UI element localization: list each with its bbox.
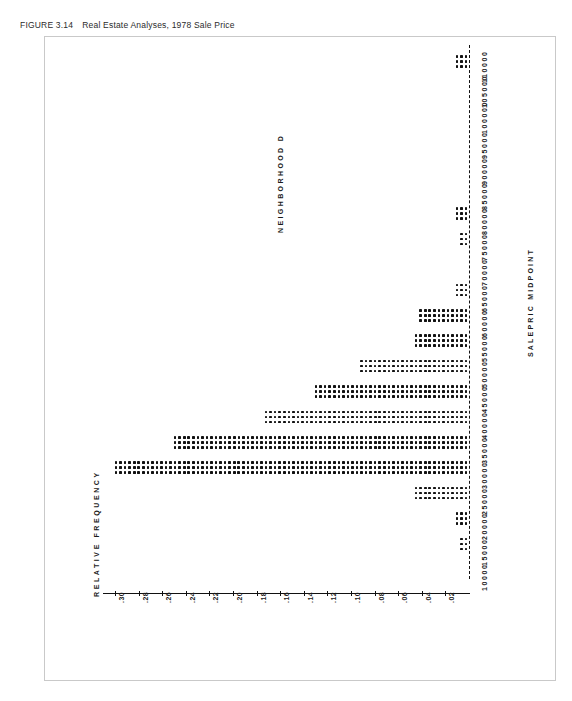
- bar-dot: [442, 339, 447, 342]
- bar-dot: [464, 421, 469, 424]
- bar-dot-row: [414, 497, 469, 500]
- bar-dot: [419, 471, 424, 474]
- bar-dot: [201, 446, 206, 449]
- bar-dot-row: [455, 517, 469, 520]
- bar-dot: [355, 446, 360, 449]
- bar-dot: [460, 548, 465, 551]
- bar-dot: [374, 446, 379, 449]
- bar-dot: [346, 385, 351, 388]
- bar-dot: [419, 492, 424, 495]
- value-axis-tick-label: .06: [401, 592, 408, 603]
- bar-dot: [310, 416, 315, 419]
- bar-dot: [360, 441, 365, 444]
- value-axis-tick-label: .28: [142, 592, 149, 603]
- bar-dot: [455, 411, 460, 414]
- bar-dot: [410, 365, 415, 368]
- bar-dot: [433, 446, 438, 449]
- bar-dot: [396, 395, 401, 398]
- bar-dot: [183, 441, 188, 444]
- bar-dot: [455, 436, 460, 439]
- bar-dot: [401, 395, 406, 398]
- bar-dot: [223, 436, 228, 439]
- bar-dot: [133, 471, 138, 474]
- bar-dot: [455, 207, 460, 210]
- bar-dot: [273, 411, 278, 414]
- bar-dot: [437, 360, 442, 363]
- bar-dot: [246, 466, 251, 469]
- bar-dot: [414, 334, 419, 337]
- bar-dot: [342, 446, 347, 449]
- bar-dot: [383, 466, 388, 469]
- bar-dot: [424, 390, 429, 393]
- bar-dot: [364, 421, 369, 424]
- bar-dot: [183, 446, 188, 449]
- bar-dot: [451, 370, 456, 373]
- bar-dot: [392, 411, 397, 414]
- bar-dot: [123, 471, 128, 474]
- bar-dot: [442, 466, 447, 469]
- bar-dot: [414, 487, 419, 490]
- bar-dot: [260, 471, 265, 474]
- bar-dot: [378, 370, 383, 373]
- bar-dot: [278, 421, 283, 424]
- bar-dot: [360, 365, 365, 368]
- bar-dot: [255, 446, 260, 449]
- category-axis-title: SALEPRIC MIDPOINT: [527, 248, 534, 357]
- bar-dot: [242, 446, 247, 449]
- bar-dot: [460, 238, 465, 241]
- bar-dot: [455, 55, 460, 58]
- bar-dot: [119, 471, 124, 474]
- bar-dot: [405, 395, 410, 398]
- bar-dot: [319, 385, 324, 388]
- bar-dot: [451, 471, 456, 474]
- bar-dot: [460, 334, 465, 337]
- bar-dot: [405, 466, 410, 469]
- bar-dot: [369, 390, 374, 393]
- bar-dot: [437, 411, 442, 414]
- bar-dot-row: [360, 370, 469, 373]
- bar-dot-row: [460, 548, 469, 551]
- bar-dot: [433, 466, 438, 469]
- bar-dot: [419, 390, 424, 393]
- bar-dot: [442, 365, 447, 368]
- bar-dot: [360, 385, 365, 388]
- bar-dot: [437, 370, 442, 373]
- bar-dot: [292, 416, 297, 419]
- bar-dot: [464, 309, 469, 312]
- bar-dot: [442, 395, 447, 398]
- bar-dot: [314, 461, 319, 464]
- bar-dot: [287, 441, 292, 444]
- bar-dot: [228, 436, 233, 439]
- bar-dot: [219, 471, 224, 474]
- bar-dot: [433, 492, 438, 495]
- bar-dot: [428, 334, 433, 337]
- bar-dot: [414, 461, 419, 464]
- bar-dot: [401, 390, 406, 393]
- bar-dot: [446, 370, 451, 373]
- bar-dot: [419, 344, 424, 347]
- bar-dot: [319, 421, 324, 424]
- bar-dot: [278, 436, 283, 439]
- bar-dot: [164, 466, 169, 469]
- bar-dot: [305, 461, 310, 464]
- bar-dot-row: [173, 436, 469, 439]
- bar-dot: [419, 314, 424, 317]
- bar-dot: [437, 471, 442, 474]
- bar-dot: [278, 471, 283, 474]
- bar-dot: [355, 411, 360, 414]
- bar-dot: [446, 446, 451, 449]
- bar-dot: [337, 390, 342, 393]
- bar-dot: [401, 365, 406, 368]
- bar-dot: [464, 284, 469, 287]
- bar-dot: [442, 446, 447, 449]
- bar-dot: [464, 492, 469, 495]
- bar: [455, 512, 469, 525]
- bar-dot: [460, 212, 465, 215]
- bar-dot: [451, 497, 456, 500]
- bar-dot: [269, 471, 274, 474]
- bar-dot: [205, 466, 210, 469]
- bar-dot: [424, 471, 429, 474]
- bar-dot: [401, 466, 406, 469]
- bar-dot: [442, 344, 447, 347]
- bar-dot: [337, 461, 342, 464]
